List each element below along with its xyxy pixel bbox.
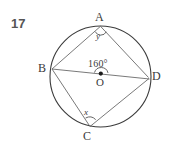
angle-label-x: x xyxy=(84,108,88,117)
angle-arc-x xyxy=(86,117,96,120)
angle-label-160-degrees: 160° xyxy=(88,59,108,69)
geometry-question-figure: 17 A B C D O 160° y x xyxy=(0,0,174,151)
question-number: 17 xyxy=(11,17,25,30)
point-label-a: A xyxy=(95,11,104,23)
point-label-c: C xyxy=(83,130,91,142)
point-label-b: B xyxy=(38,62,46,74)
point-label-d: D xyxy=(152,70,161,82)
angle-label-y: y xyxy=(96,32,100,41)
chord-a-d xyxy=(101,26,149,77)
center-label-o: O xyxy=(96,77,104,88)
